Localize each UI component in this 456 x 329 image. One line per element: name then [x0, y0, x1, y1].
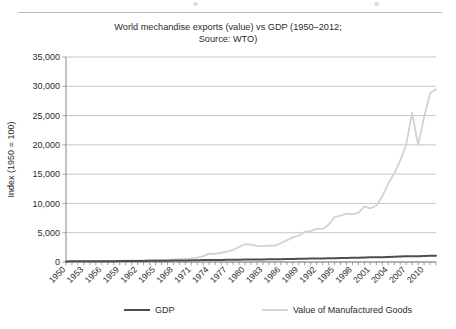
x-tick-label: 2001: [351, 264, 372, 285]
y-tick-label: 35,000: [32, 52, 60, 62]
x-tick-label: 1959: [101, 264, 122, 285]
x-tick-label: 1974: [190, 264, 211, 285]
chart-plot-area: 05,00010,00015,00020,00025,00030,00035,0…: [0, 0, 456, 329]
x-axis-ticks: 1950195319561959196219651968197119741977…: [47, 262, 436, 285]
y-axis-title: Index (1950 = 100): [6, 122, 16, 198]
y-tick-label: 25,000: [32, 111, 60, 121]
x-tick-label: 1986: [262, 264, 283, 285]
x-tick-label: 1995: [315, 264, 336, 285]
series-line-gdp: [66, 256, 436, 262]
legend-label-value-of-manufactured-goods: Value of Manufactured Goods: [293, 305, 412, 315]
data-series-group: [66, 89, 436, 261]
y-gridlines: [66, 57, 436, 262]
x-tick-label: 1956: [83, 264, 104, 285]
x-tick-label: 1950: [47, 264, 68, 285]
chart-legend: GDPValue of Manufactured Goods: [124, 305, 412, 315]
axis-lines: [66, 57, 436, 262]
x-tick-label: 1971: [172, 264, 193, 285]
x-tick-label: 2007: [387, 264, 408, 285]
x-tick-label: 1992: [297, 264, 318, 285]
y-tick-label: 20,000: [32, 140, 60, 150]
y-tick-label: 30,000: [32, 81, 60, 91]
y-axis-ticks: 05,00010,00015,00020,00025,00030,00035,0…: [32, 52, 66, 267]
chart-figure: World mechandise exports (value) vs GDP …: [0, 0, 456, 329]
x-tick-label: 1983: [244, 264, 265, 285]
y-tick-label: 10,000: [32, 199, 60, 209]
series-line-value-of-manufactured-goods: [66, 89, 436, 261]
y-tick-label: 5,000: [37, 228, 60, 238]
y-axis-label: Index (1950 = 100): [6, 122, 16, 198]
x-tick-label: 2004: [369, 264, 390, 285]
x-tick-label: 1965: [136, 264, 157, 285]
x-tick-label: 1998: [333, 264, 354, 285]
x-tick-label: 1968: [154, 264, 175, 285]
x-tick-label: 1989: [280, 264, 301, 285]
y-tick-label: 15,000: [32, 169, 60, 179]
legend-label-gdp: GDP: [155, 305, 175, 315]
x-tick-label: 1962: [118, 264, 139, 285]
x-tick-label: 1980: [226, 264, 247, 285]
x-tick-label: 1953: [65, 264, 86, 285]
x-tick-label: 1977: [208, 264, 229, 285]
x-tick-label: 2010: [405, 264, 426, 285]
